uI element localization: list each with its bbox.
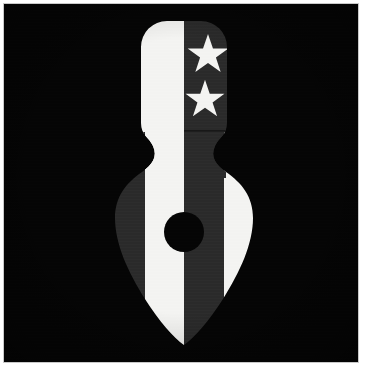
emblem-illustration bbox=[4, 4, 358, 362]
center-dot bbox=[164, 212, 204, 252]
photo-frame bbox=[4, 4, 358, 362]
handle-seam-line bbox=[184, 130, 228, 132]
image-canvas bbox=[0, 0, 365, 373]
